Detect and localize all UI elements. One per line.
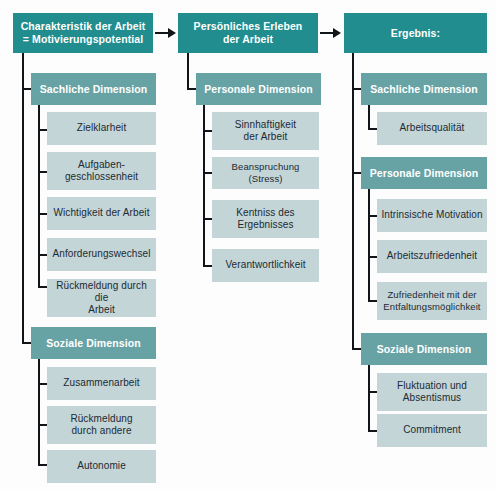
- leaf-box-rueckmeldung-durch-die-arbeit: Rückmeldung durch die Arbeit: [47, 279, 156, 317]
- dimension-box-personale-3: Personale Dimension: [361, 157, 487, 189]
- leaf-line-1: Beanspruchung (Stress): [216, 161, 315, 184]
- leaf-box-commitment: Commitment: [377, 414, 487, 447]
- connector-trunk-column-2: [187, 53, 189, 90]
- leaf-box-kentniss-des-ergebnisses: Kentniss des Ergebnisses: [212, 200, 319, 238]
- leaf-box-aufgabengeschlossenheit: Aufgaben- geschlossenheit: [47, 152, 156, 190]
- leaf-line-1: Wichtigkeit der Arbeit: [53, 207, 149, 219]
- leaf-line-1: Zufriedenheit mit der: [383, 289, 480, 301]
- leaf-line-2: Arbeit: [51, 304, 152, 316]
- leaf-line-1: Rückmeldung: [70, 413, 132, 425]
- leaf-box-autonomie: Autonomie: [47, 450, 156, 483]
- header-box-column-1: Charakteristik der Arbeit = Motivierungs…: [13, 13, 153, 53]
- dimension-box-sachliche-1: Sachliche Dimension: [31, 73, 156, 105]
- dimension-label: Soziale Dimension: [377, 343, 471, 356]
- leaf-line-1: Intrinsische Motivation: [381, 209, 482, 221]
- leaf-line-2: Absentismus: [397, 392, 467, 404]
- leaf-line-2: durch andere: [70, 425, 132, 437]
- connector-branch-sachliche-3: [368, 105, 370, 130]
- dimension-box-personale-2: Personale Dimension: [196, 73, 321, 105]
- leaf-box-wichtigkeit-der-arbeit: Wichtigkeit der Arbeit: [47, 197, 156, 230]
- header-line-2: = Motivierungspotential: [21, 33, 146, 46]
- dimension-label: Sachliche Dimension: [40, 83, 148, 96]
- connector-branch-sachliche-1: [38, 105, 40, 286]
- leaf-line-1: Zusammenarbeit: [63, 377, 139, 389]
- header-line-1: Charakteristik der Arbeit: [21, 20, 146, 33]
- leaf-line-2: Entfaltungsmöglichkeit: [383, 301, 480, 313]
- connector-trunk-column-3: [352, 53, 354, 350]
- header-box-column-3: Ergebnis:: [344, 13, 487, 53]
- dimension-label: Soziale Dimension: [46, 337, 140, 350]
- leaf-box-zusammenarbeit: Zusammenarbeit: [47, 367, 156, 400]
- leaf-box-rueckmeldung-durch-andere: Rückmeldung durch andere: [47, 406, 156, 444]
- leaf-line-1: Kentniss des: [236, 207, 294, 219]
- dimension-box-soziale-1: Soziale Dimension: [31, 327, 156, 359]
- header-box-column-2: Persönliches Erleben der Arbeit: [178, 13, 318, 53]
- header-line-2: der Arbeit: [194, 33, 303, 46]
- leaf-line-1: Zielklarheit: [77, 122, 127, 134]
- leaf-box-anforderungswechsel: Anforderungswechsel: [47, 238, 156, 271]
- leaf-line-1: Commitment: [403, 424, 461, 436]
- header-line-1: Ergebnis:: [391, 27, 440, 40]
- dimension-box-sachliche-3: Sachliche Dimension: [361, 73, 487, 105]
- connector-trunk-column-1: [22, 53, 24, 344]
- leaf-line-1: Verantwortlichkeit: [225, 259, 305, 271]
- leaf-box-zielklarheit: Zielklarheit: [47, 112, 156, 145]
- leaf-line-1: Rückmeldung durch die: [51, 280, 152, 304]
- header-line-1: Persönliches Erleben: [194, 20, 303, 33]
- leaf-box-verantwortlichkeit: Verantwortlichkeit: [212, 249, 319, 282]
- leaf-line-1: Fluktuation und: [397, 380, 467, 392]
- leaf-box-fluktuation-und-absentismus: Fluktuation und Absentismus: [377, 373, 487, 411]
- leaf-line-1: Autonomie: [77, 460, 126, 472]
- leaf-box-intrinsische-motivation: Intrinsische Motivation: [377, 199, 487, 232]
- leaf-line-2: Ergebnisses: [236, 219, 294, 231]
- leaf-box-zufriedenheit-entfaltungsmoeglichkeit: Zufriedenheit mit der Entfaltungsmöglich…: [377, 282, 487, 320]
- dimension-label: Personale Dimension: [204, 83, 313, 96]
- leaf-line-1: Arbeitsqualität: [400, 122, 465, 134]
- dimension-label: Personale Dimension: [370, 167, 479, 180]
- dimension-box-soziale-3: Soziale Dimension: [361, 333, 487, 365]
- leaf-line-1: Sinnhaftigkeit: [235, 119, 296, 131]
- leaf-line-2: geschlossenheit: [65, 171, 138, 183]
- leaf-line-2: der Arbeit: [235, 131, 296, 143]
- leaf-line-1: Arbeitszufriedenheit: [387, 250, 477, 262]
- connector-branch-soziale-1: [38, 359, 40, 464]
- dimension-label: Sachliche Dimension: [370, 83, 478, 96]
- connector-branch-personale-3: [368, 189, 370, 302]
- flowchart-diagram: Charakteristik der Arbeit = Motivierungs…: [0, 0, 496, 489]
- leaf-box-arbeitsqualitaet: Arbeitsqualität: [377, 112, 487, 145]
- connector-branch-soziale-3: [368, 365, 370, 430]
- leaf-box-sinnhaftigkeit-der-arbeit: Sinnhaftigkeit der Arbeit: [212, 112, 319, 150]
- leaf-line-1: Anforderungswechsel: [52, 248, 150, 260]
- leaf-box-arbeitszufriedenheit: Arbeitszufriedenheit: [377, 240, 487, 273]
- leaf-line-1: Aufgaben-: [65, 159, 138, 171]
- leaf-box-beanspruchung-stress: Beanspruchung (Stress): [212, 157, 319, 189]
